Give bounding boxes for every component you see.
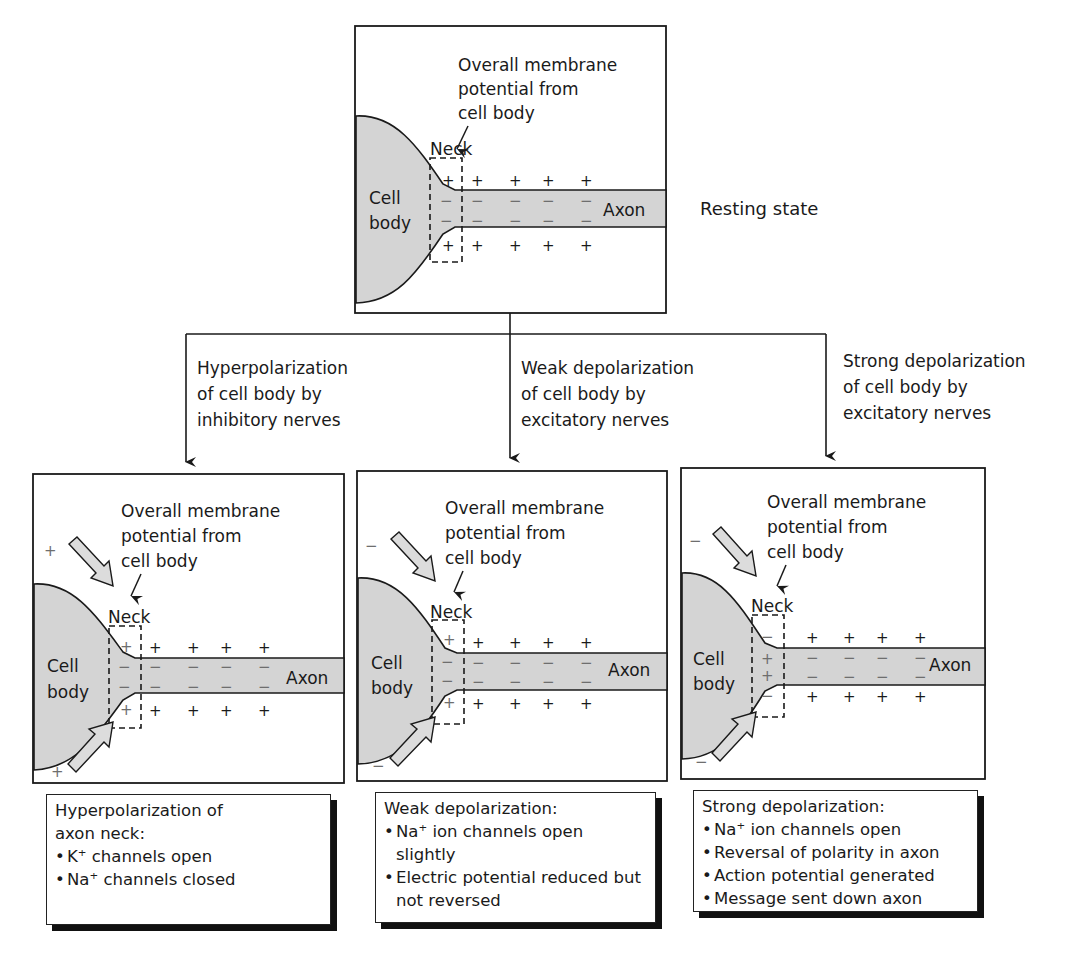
- svg-text:+: +: [542, 634, 555, 652]
- result-title-line-1: Strong depolarization:: [702, 795, 969, 818]
- svg-text:−: −: [220, 678, 233, 696]
- neck-outer-sign-bottom: −: [761, 687, 774, 705]
- svg-text:−: −: [914, 649, 927, 667]
- result-bullets: Na⁺ ion channels open slightly Electric …: [384, 820, 647, 912]
- caption-line-3: cell body: [121, 551, 198, 571]
- neck-inner-sign-bottom: −: [118, 678, 131, 696]
- svg-text:+: +: [220, 639, 233, 657]
- input-charge-sign-top: −: [689, 532, 702, 550]
- weak-depolarization-panel: Overall membrane potential from cell bod…: [357, 471, 667, 781]
- caption-line-2: potential from: [458, 79, 579, 99]
- result-bullet: Na⁺ ion channels open slightly: [384, 820, 636, 866]
- svg-text:+: +: [258, 702, 271, 720]
- cell-body-label-2: body: [371, 678, 413, 698]
- svg-text:+: +: [914, 688, 927, 706]
- svg-text:+: +: [471, 237, 484, 255]
- neck-outer-sign-top: +: [442, 172, 455, 190]
- svg-text:+: +: [843, 688, 856, 706]
- svg-text:−: −: [806, 668, 819, 686]
- result-title-line-1: Weak depolarization:: [384, 797, 647, 820]
- axon-label: Axon: [608, 660, 650, 680]
- svg-text:+: +: [876, 629, 889, 647]
- svg-text:+: +: [472, 695, 485, 713]
- svg-text:−: −: [542, 192, 555, 210]
- caption-line-2: potential from: [121, 526, 242, 546]
- svg-text:+: +: [542, 172, 555, 190]
- svg-text:+: +: [580, 237, 593, 255]
- svg-text:+: +: [580, 695, 593, 713]
- svg-text:−: −: [509, 192, 522, 210]
- svg-text:−: −: [220, 658, 233, 676]
- svg-text:+: +: [509, 695, 522, 713]
- svg-text:−: −: [542, 673, 555, 691]
- neck-label: Neck: [108, 607, 151, 627]
- result-bullets: Na⁺ ion channels open Reversal of polari…: [702, 818, 969, 910]
- neck-inner-sign-bottom: +: [761, 667, 774, 685]
- hyperpolarization-panel: Overall membrane potential from cell bod…: [33, 474, 344, 783]
- result-title-line-2: axon neck:: [55, 822, 322, 845]
- neck-inner-sign-bottom: −: [440, 212, 453, 230]
- svg-text:−: −: [187, 658, 200, 676]
- result-bullets: K⁺ channels open Na⁺ channels closed: [55, 845, 322, 891]
- svg-text:−: −: [187, 678, 200, 696]
- svg-text:+: +: [542, 237, 555, 255]
- branch-label-strong-depolarization: Strong depolarization of cell body by ex…: [843, 348, 1026, 426]
- svg-text:−: −: [509, 212, 522, 230]
- svg-text:−: −: [471, 192, 484, 210]
- neck-label: Neck: [751, 596, 794, 616]
- svg-text:+: +: [580, 634, 593, 652]
- input-charge-sign-bottom: −: [372, 757, 385, 775]
- svg-text:+: +: [806, 629, 819, 647]
- svg-text:+: +: [220, 702, 233, 720]
- result-bullet: Action potential generated: [702, 864, 969, 887]
- svg-text:−: −: [542, 654, 555, 672]
- svg-text:+: +: [149, 639, 162, 657]
- cell-body-label-2: body: [693, 674, 735, 694]
- svg-text:−: −: [580, 192, 593, 210]
- svg-text:+: +: [806, 688, 819, 706]
- axon-label: Axon: [603, 200, 645, 220]
- caption-line-2: potential from: [445, 523, 566, 543]
- svg-text:+: +: [509, 634, 522, 652]
- neck-inner-sign-top: −: [441, 653, 454, 671]
- caption-line-1: Overall membrane: [445, 498, 604, 518]
- result-bullet: Na⁺ ion channels open: [702, 818, 969, 841]
- neck-outer-sign-bottom: +: [120, 701, 133, 719]
- svg-text:+: +: [187, 639, 200, 657]
- result-bullet: Electric potential reduced but not rever…: [384, 866, 656, 912]
- input-charge-sign-bottom: +: [51, 763, 64, 781]
- caption-line-3: cell body: [767, 542, 844, 562]
- svg-text:−: −: [876, 668, 889, 686]
- svg-text:−: −: [580, 212, 593, 230]
- input-charge-sign-top: +: [44, 542, 57, 560]
- result-box-strong-depolarization: Strong depolarization: Na⁺ ion channels …: [693, 790, 978, 912]
- svg-text:−: −: [509, 673, 522, 691]
- branch-label-hyperpolarization: Hyperpolarization of cell body by inhibi…: [197, 355, 348, 433]
- neck-label: Neck: [430, 139, 473, 159]
- neck-inner-sign-top: −: [118, 658, 131, 676]
- svg-text:+: +: [542, 695, 555, 713]
- result-bullet: Message sent down axon: [702, 887, 969, 910]
- svg-text:+: +: [472, 634, 485, 652]
- cell-body-label-1: Cell: [371, 653, 403, 673]
- caption-line-3: cell body: [445, 548, 522, 568]
- svg-text:−: −: [149, 658, 162, 676]
- svg-text:−: −: [258, 678, 271, 696]
- svg-text:+: +: [580, 172, 593, 190]
- svg-text:−: −: [472, 654, 485, 672]
- svg-text:+: +: [187, 702, 200, 720]
- neck-inner-sign-bottom: −: [441, 672, 454, 690]
- svg-text:−: −: [876, 649, 889, 667]
- input-charge-sign-bottom: −: [695, 753, 708, 771]
- svg-text:−: −: [149, 678, 162, 696]
- branch-label-weak-depolarization: Weak depolarization of cell body by exci…: [521, 355, 694, 433]
- svg-text:−: −: [580, 654, 593, 672]
- input-charge-sign-top: −: [365, 537, 378, 555]
- svg-text:−: −: [580, 673, 593, 691]
- svg-text:+: +: [914, 629, 927, 647]
- result-bullet: Reversal of polarity in axon: [702, 841, 969, 864]
- neck-outer-sign-top: −: [761, 628, 774, 646]
- svg-text:−: −: [472, 673, 485, 691]
- resting-state-panel: Overall membrane potential from cell bod…: [355, 26, 666, 313]
- neck-outer-sign-top: +: [443, 631, 456, 649]
